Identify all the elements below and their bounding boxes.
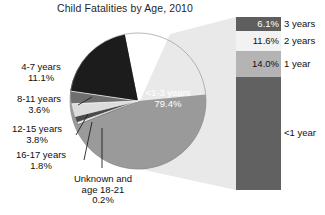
page-title: Child Fatalities by Age, 2010 [0, 2, 250, 14]
pie-center-label: <1-3 years 79.4% [128, 88, 208, 109]
callout-unknown-18-21-value: 0.2% [60, 195, 146, 206]
pie-center-label-name: <1-3 years [145, 87, 190, 98]
callout-4-7-years-value: 11.1% [6, 73, 76, 84]
bar-label-1-year: 1 year [284, 59, 310, 69]
callout-12-15-years: 12-15 years 3.8% [0, 124, 74, 145]
callout-unknown-18-21-line1: Unknown and [74, 173, 132, 184]
callout-16-17-years: 16-17 years 1.8% [4, 150, 78, 171]
bar-label-2-years: 2 years [284, 36, 315, 46]
callout-4-7-years-name: 4-7 years [21, 61, 61, 72]
bar-label-3-years: 3 years [284, 19, 315, 29]
callout-12-15-years-name: 12-15 years [12, 123, 62, 134]
bar-value-3-years: 6.1% [236, 19, 279, 29]
callout-unknown-18-21: Unknown and age 18-21 0.2% [60, 174, 146, 206]
bar-segment-under-1-year [236, 77, 281, 190]
callout-4-7-years: 4-7 years 11.1% [6, 62, 76, 83]
callout-8-11-years-value: 3.6% [4, 105, 74, 116]
chart-figure: Child Fatalities by Age, 2010 <1-3 years… [0, 0, 325, 215]
pie-center-label-value: 79.4% [155, 98, 182, 109]
callout-16-17-years-value: 1.8% [4, 161, 78, 172]
callout-12-15-years-value: 3.8% [0, 135, 74, 146]
bar-label-under-1-year: <1 year [284, 128, 316, 138]
bar-value-2-years: 11.6% [234, 36, 279, 46]
bar-value-1-year: 14.0% [234, 59, 279, 69]
callout-16-17-years-name: 16-17 years [16, 149, 66, 160]
callout-8-11-years: 8-11 years 3.6% [4, 94, 74, 115]
callout-8-11-years-name: 8-11 years [17, 93, 61, 104]
